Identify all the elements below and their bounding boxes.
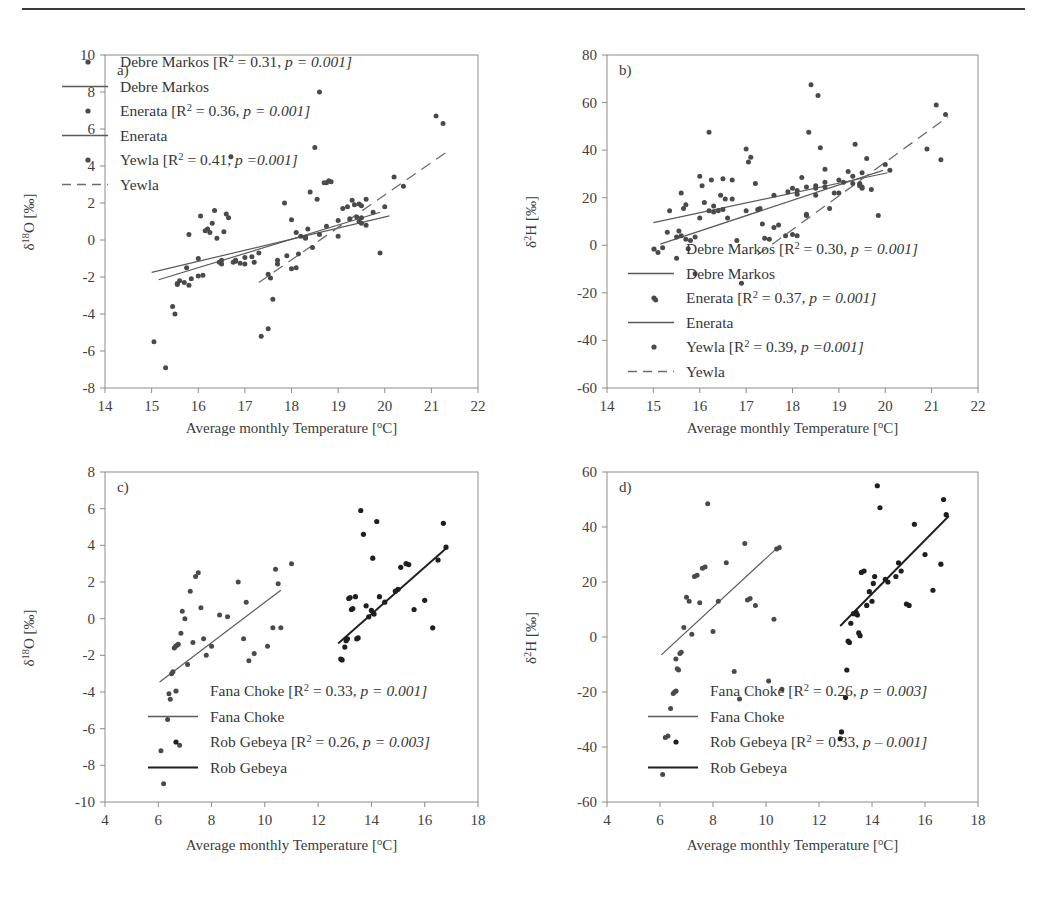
data-point xyxy=(871,581,876,586)
data-point xyxy=(189,276,194,281)
data-point xyxy=(893,574,898,579)
data-point xyxy=(679,233,684,238)
y-tick-label: -4 xyxy=(83,684,96,700)
x-tick-label: 14 xyxy=(98,398,114,414)
x-tick-label: 22 xyxy=(971,398,986,414)
data-point xyxy=(693,234,698,239)
data-point xyxy=(252,260,257,265)
data-point xyxy=(406,562,411,567)
data-point xyxy=(165,717,170,722)
data-point xyxy=(679,650,684,655)
x-tick-label: 16 xyxy=(918,812,934,828)
y-tick-label: 0 xyxy=(88,232,96,248)
legend-label: Debre Markos [R2 = 0.31, p = 0.001] xyxy=(120,53,352,70)
trend-line xyxy=(159,212,380,280)
plot-frame xyxy=(607,472,978,802)
data-point xyxy=(716,208,721,213)
data-point xyxy=(790,232,795,237)
data-point xyxy=(347,216,352,221)
data-point xyxy=(176,642,181,647)
data-point xyxy=(813,186,818,191)
y-tick-label: 4 xyxy=(88,537,96,553)
y-axis-title: δ18O [‰] xyxy=(20,193,37,250)
trend-line xyxy=(160,590,281,682)
x-tick-label: 16 xyxy=(692,398,708,414)
data-point xyxy=(422,598,427,603)
x-axis-title: Average monthly Temperature [oC] xyxy=(186,419,398,436)
header-divider-rule xyxy=(22,8,1025,10)
data-point xyxy=(166,691,171,696)
data-point xyxy=(207,230,212,235)
y-tick-label: -6 xyxy=(83,343,96,359)
data-point xyxy=(818,145,823,150)
data-point xyxy=(198,213,203,218)
y-tick-label: 20 xyxy=(582,574,597,590)
x-tick-label: 12 xyxy=(311,812,326,828)
data-point xyxy=(883,162,888,167)
data-point xyxy=(850,181,855,186)
x-tick-label: 21 xyxy=(924,398,939,414)
legend-label: Enerata [R2 = 0.37, p = 0.001] xyxy=(686,289,876,306)
data-point xyxy=(382,600,387,605)
x-tick-label: 18 xyxy=(471,812,486,828)
data-point xyxy=(707,130,712,135)
data-point xyxy=(899,568,904,573)
data-point xyxy=(681,625,686,630)
data-point xyxy=(336,218,341,223)
data-point xyxy=(435,557,440,562)
data-point xyxy=(806,130,811,135)
legend-label: Rob Gebeya xyxy=(710,759,787,776)
data-point xyxy=(190,640,195,645)
data-point xyxy=(242,262,247,267)
data-point xyxy=(210,221,215,226)
legend-marker-dot xyxy=(673,688,678,693)
data-point xyxy=(204,653,209,658)
data-point xyxy=(276,581,281,586)
legend-label: Debre Markos xyxy=(686,265,775,282)
data-point xyxy=(441,521,446,526)
data-point xyxy=(278,625,283,630)
data-point xyxy=(172,312,177,317)
data-point xyxy=(790,186,795,191)
data-point xyxy=(822,185,827,190)
data-point xyxy=(771,225,776,230)
data-point xyxy=(188,589,193,594)
data-point xyxy=(777,545,782,550)
data-point xyxy=(185,662,190,667)
data-point xyxy=(877,505,882,510)
data-point xyxy=(358,508,363,513)
data-point xyxy=(242,255,247,260)
data-point xyxy=(720,207,725,212)
data-point xyxy=(697,600,702,605)
data-point xyxy=(660,772,665,777)
data-point xyxy=(371,210,376,215)
data-point xyxy=(317,90,322,95)
legend-label: Yewla xyxy=(686,363,725,380)
data-point xyxy=(674,234,679,239)
data-point xyxy=(813,193,818,198)
data-point xyxy=(683,202,688,207)
data-point xyxy=(896,560,901,565)
data-point xyxy=(441,121,446,126)
data-point xyxy=(930,588,935,593)
data-point xyxy=(392,175,397,180)
data-point xyxy=(732,669,737,674)
x-tick-label: 16 xyxy=(417,812,433,828)
data-point xyxy=(748,596,753,601)
data-point xyxy=(275,262,280,267)
x-tick-label: 12 xyxy=(812,812,827,828)
x-tick-label: 17 xyxy=(739,398,755,414)
y-axis-title: δ2H [‰] xyxy=(522,196,539,248)
data-point xyxy=(867,589,872,594)
y-tick-label: -6 xyxy=(83,721,96,737)
data-point xyxy=(665,230,670,235)
data-point xyxy=(668,706,673,711)
data-point xyxy=(702,200,707,205)
x-tick-label: 20 xyxy=(377,398,392,414)
data-point xyxy=(273,567,278,572)
data-point xyxy=(861,568,866,573)
x-tick-label: 15 xyxy=(144,398,159,414)
data-point xyxy=(382,204,387,209)
legend-label: Rob Gebeya xyxy=(210,759,287,776)
data-point xyxy=(860,170,865,175)
